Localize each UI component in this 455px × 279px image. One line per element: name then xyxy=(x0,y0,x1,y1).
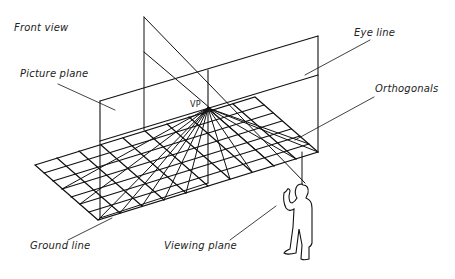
label-eye-line: Eye line xyxy=(354,27,395,38)
perspective-diagram: Front view Eye line Picture plane Orthog… xyxy=(0,0,455,279)
label-ground-line: Ground line xyxy=(30,240,90,251)
observer-figure xyxy=(284,184,312,260)
ground-grid xyxy=(35,97,318,220)
label-picture-plane: Picture plane xyxy=(20,68,88,79)
label-orthogonals: Orthogonals xyxy=(375,83,438,94)
label-vp: VP xyxy=(190,100,201,109)
perspective-drawing xyxy=(0,0,455,279)
picture-plane xyxy=(100,36,318,218)
label-front-view: Front view xyxy=(14,22,68,33)
label-viewing-plane: Viewing plane xyxy=(164,240,237,251)
